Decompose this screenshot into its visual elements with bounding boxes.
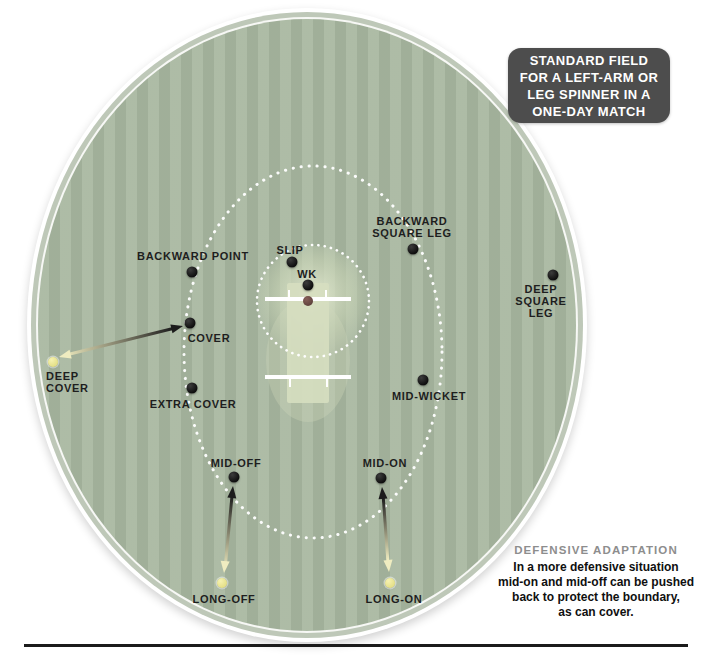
mid-off-dot xyxy=(229,472,240,483)
backward-square-leg-dot xyxy=(408,244,419,255)
backward-square-leg-label: BACKWARDSQUARE LEG xyxy=(372,215,452,239)
title-line: STANDARD FIELD xyxy=(508,52,670,69)
slip-label: SLIP xyxy=(276,244,303,256)
mid-on-dot xyxy=(376,473,387,484)
batsman-dot xyxy=(303,296,313,306)
title-line: LEG SPINNER IN A xyxy=(508,86,670,103)
cricket-field-diagram: SLIPWKBACKWARD POINTCOVEREXTRA COVERDEEP… xyxy=(0,0,711,664)
adaptation-note-line: In a more defensive situation xyxy=(489,560,703,575)
long-on-dot xyxy=(385,578,395,588)
mid-wicket-label: MID-WICKET xyxy=(392,390,466,402)
title-box: STANDARD FIELD FOR A LEFT-ARM OR LEG SPI… xyxy=(508,48,670,123)
deep-square-leg-label: DEEPSQUARELEG xyxy=(515,283,566,319)
extra-cover-dot xyxy=(187,383,198,394)
deep-cover-dot xyxy=(48,357,58,367)
backward-point-dot xyxy=(187,267,198,278)
slip-dot xyxy=(287,257,298,268)
title-line: ONE-DAY MATCH xyxy=(508,103,670,120)
deep-cover-label: DEEPCOVER xyxy=(46,370,89,394)
adaptation-note-line: as can cover. xyxy=(489,605,703,620)
cover-dot xyxy=(185,318,196,329)
mid-off-label: MID-OFF xyxy=(211,457,262,469)
long-off-dot xyxy=(217,578,227,588)
long-on-label: LONG-ON xyxy=(366,593,423,605)
wk-label: WK xyxy=(297,268,317,280)
long-off-label: LONG-OFF xyxy=(192,593,255,605)
adaptation-note: DEFENSIVE ADAPTATION In a more defensive… xyxy=(489,544,703,620)
mid-wicket-dot xyxy=(418,375,429,386)
adaptation-note-heading: DEFENSIVE ADAPTATION xyxy=(489,544,703,556)
deep-square-leg-dot xyxy=(548,270,559,281)
adaptation-note-line: back to protect the boundary, xyxy=(489,590,703,605)
extra-cover-label: EXTRA COVER xyxy=(150,398,237,410)
adaptation-note-line: mid-on and mid-off can be pushed xyxy=(489,575,703,590)
cover-label: COVER xyxy=(188,332,231,344)
wk-dot xyxy=(303,280,314,291)
title-line: FOR A LEFT-ARM OR xyxy=(508,69,670,86)
backward-point-label: BACKWARD POINT xyxy=(137,250,249,262)
bottom-rule xyxy=(24,644,688,647)
mid-on-label: MID-ON xyxy=(363,457,408,469)
